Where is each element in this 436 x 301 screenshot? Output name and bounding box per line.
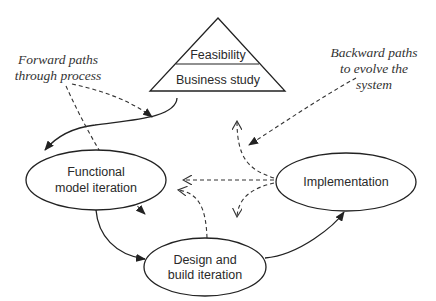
functional-model-ellipse <box>26 150 166 210</box>
functional-to-design-arrow <box>96 210 145 259</box>
dsdm-process-diagram: Feasibility Business study Forward paths… <box>0 0 436 301</box>
feasibility-label: Feasibility <box>190 48 246 62</box>
design-build-ellipse <box>144 238 266 296</box>
functional-label-line-2: model iteration <box>55 181 137 195</box>
impl-to-design-dashed-arrow <box>237 183 274 217</box>
business-to-functional-arrow <box>45 98 177 150</box>
business-study-label: Business study <box>176 73 261 87</box>
impl-to-business-dashed-arrow <box>237 121 274 178</box>
implementation-label: Implementation <box>303 175 389 189</box>
backward-note-line-2: to evolve the <box>340 61 408 76</box>
forward-note-line-2: through process <box>15 68 101 83</box>
design-to-functional-dashed-arrow <box>178 190 207 238</box>
design-build-node: Design and build iteration <box>144 238 266 296</box>
forward-paths-note: Forward paths through process <box>15 52 101 83</box>
design-label-line-1: Design and <box>173 253 236 267</box>
implementation-node: Implementation <box>276 153 416 211</box>
forward-note-pointer-arrow <box>72 84 152 117</box>
functional-model-node: Functional model iteration <box>26 150 166 210</box>
backward-note-line-3: system <box>356 77 392 92</box>
pyramid: Feasibility Business study <box>150 18 285 91</box>
forward-note-line-1: Forward paths <box>17 52 98 67</box>
design-to-implementation-arrow <box>265 212 344 258</box>
design-label-line-2: build iteration <box>168 268 242 282</box>
functional-label-line-1: Functional <box>67 165 125 179</box>
backward-note-line-1: Backward paths <box>331 45 418 60</box>
